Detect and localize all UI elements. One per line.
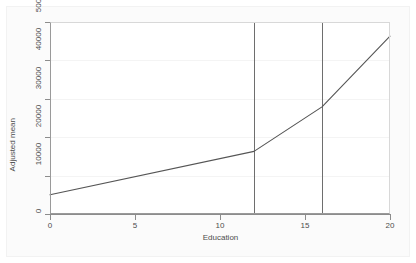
x-tick-mark-5	[135, 215, 136, 220]
x-tick-label-10: 10	[216, 221, 225, 230]
x-axis-title: Education	[50, 233, 391, 242]
x-tick-label-15: 15	[301, 221, 310, 230]
x-tick-label-20: 20	[386, 221, 395, 230]
x-axis-line	[50, 214, 391, 215]
y-tick-label-40000: 40000	[34, 28, 43, 50]
y-tick-label-50000: 50000	[34, 0, 43, 12]
plot-area	[50, 22, 390, 214]
x-tick-label-0: 0	[48, 221, 52, 230]
y-axis-title: Adjusted mean	[8, 118, 17, 171]
y-tick-label-10000: 10000	[34, 143, 43, 165]
data-series-layer	[50, 22, 390, 214]
y-tick-label-20000: 20000	[34, 105, 43, 127]
x-tick-label-5: 5	[133, 221, 137, 230]
series-line-adjusted-mean	[50, 36, 390, 195]
y-tick-label-0: 0	[34, 208, 43, 212]
chart-figure: Adjusted mean 01000020000300004000050000…	[0, 0, 416, 263]
x-tick-mark-0	[50, 215, 51, 220]
x-tick-mark-20	[390, 215, 391, 220]
x-tick-mark-15	[305, 215, 306, 220]
x-tick-mark-10	[220, 215, 221, 220]
y-tick-label-30000: 30000	[34, 66, 43, 88]
